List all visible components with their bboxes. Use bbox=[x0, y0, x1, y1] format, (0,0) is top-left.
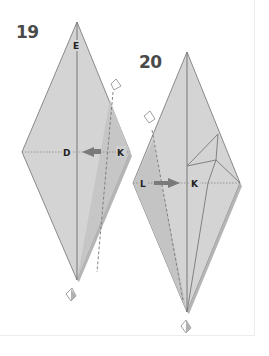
label-d: D bbox=[63, 148, 70, 158]
label-k: K bbox=[117, 148, 125, 158]
label-l: L bbox=[140, 179, 146, 189]
fold-arrow-icon bbox=[111, 79, 121, 90]
origami-diagram: E D K L K bbox=[0, 0, 269, 356]
label-k2: K bbox=[191, 179, 199, 189]
label-e: E bbox=[73, 41, 79, 51]
fold-arrow-icon bbox=[144, 111, 155, 123]
step-19-figure: E D K bbox=[22, 22, 132, 301]
step-20-figure: L K bbox=[133, 52, 242, 333]
